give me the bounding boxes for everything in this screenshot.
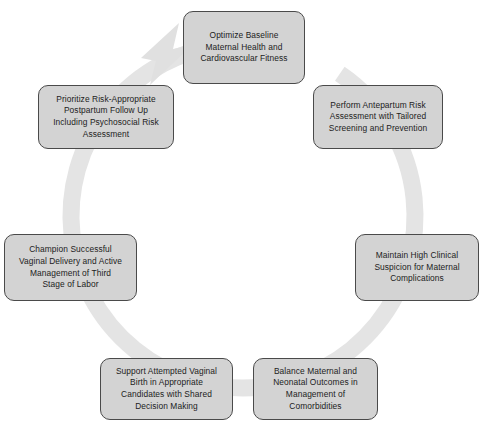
cycle-node-label: Balance Maternal and Neonatal Outcomes i… [273, 366, 358, 412]
cycle-node-champion-vaginal-delivery[interactable]: Champion Successful Vaginal Delivery and… [4, 234, 137, 301]
cycle-node-label: Support Attempted Vaginal Birth in Appro… [116, 366, 217, 412]
cycle-node-support-vaginal-birth[interactable]: Support Attempted Vaginal Birth in Appro… [100, 358, 233, 420]
cycle-node-label: Champion Successful Vaginal Delivery and… [19, 244, 122, 290]
cycle-node-label: Prioritize Risk-Appropriate Postpartum F… [53, 94, 159, 140]
cycle-node-label: Maintain High Clinical Suspicion for Mat… [374, 250, 459, 285]
cycle-node-balance-outcomes[interactable]: Balance Maternal and Neonatal Outcomes i… [253, 358, 378, 420]
cycle-node-postpartum-follow-up[interactable]: Prioritize Risk-Appropriate Postpartum F… [38, 85, 174, 149]
cycle-diagram: Optimize Baseline Maternal Health and Ca… [0, 0, 486, 437]
cycle-node-label: Optimize Baseline Maternal Health and Ca… [200, 30, 287, 65]
cycle-node-clinical-suspicion[interactable]: Maintain High Clinical Suspicion for Mat… [355, 234, 479, 301]
cycle-node-optimize-baseline[interactable]: Optimize Baseline Maternal Health and Ca… [183, 11, 305, 84]
cycle-node-antepartum-risk-assessment[interactable]: Perform Antepartum Risk Assessment with … [313, 85, 443, 149]
cycle-node-label: Perform Antepartum Risk Assessment with … [329, 100, 427, 135]
